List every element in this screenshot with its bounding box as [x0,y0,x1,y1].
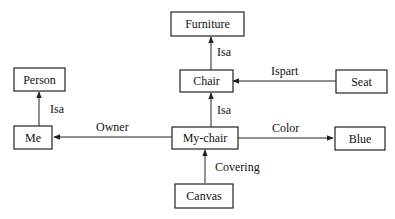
edge-label-color: Color [272,121,299,135]
edge-mychair-color-blue: Color [238,121,333,138]
edge-me-isa-person: Isa [39,92,65,126]
edge-mychair-isa-chair: Isa [211,93,232,127]
edge-chair-isa-furniture: Isa [211,37,232,70]
edge-label-ispart: Ispart [271,64,299,78]
node-blue: Blue [335,127,385,150]
svg-text:Person: Person [23,73,56,87]
svg-text:Chair: Chair [193,74,220,88]
svg-text:Furniture: Furniture [185,17,230,31]
node-canvas: Canvas [175,184,233,208]
edge-canvas-covering-mychair: Covering [205,150,260,183]
svg-text:Me: Me [25,131,41,145]
edge-mychair-owner-me: Owner [54,120,172,137]
edge-label-isa: Isa [217,45,232,59]
node-seat: Seat [336,70,387,93]
node-my-chair: My-chair [172,127,238,149]
svg-text:Canvas: Canvas [186,189,222,203]
edge-label-isa: Isa [50,102,65,116]
node-chair: Chair [180,70,233,92]
edge-label-isa: Isa [217,103,232,117]
svg-text:My-chair: My-chair [183,131,228,145]
edge-label-covering: Covering [215,160,260,174]
node-person: Person [14,68,65,91]
node-me: Me [14,126,52,149]
svg-text:Seat: Seat [351,75,372,89]
semantic-network-diagram: Isa Ispart Isa Isa Owner Color Covering … [0,0,395,219]
edge-label-owner: Owner [96,120,129,134]
edge-seat-ispart-chair: Ispart [233,64,338,81]
node-furniture: Furniture [171,12,244,36]
svg-text:Blue: Blue [349,132,372,146]
